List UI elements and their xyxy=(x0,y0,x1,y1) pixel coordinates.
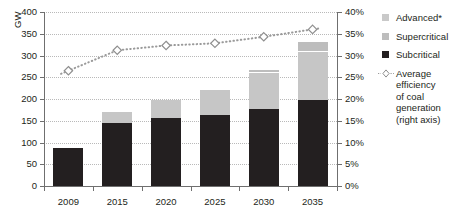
bar-segment-supercritical xyxy=(249,72,279,109)
gridline xyxy=(44,121,337,122)
y-axis-right-tick-label: 20% xyxy=(345,94,364,104)
y-axis-left-line xyxy=(44,12,45,187)
bar-column xyxy=(200,12,230,186)
bar-segment-subcritical xyxy=(102,123,132,186)
y-axis-left-tickmark xyxy=(40,99,44,100)
gridline xyxy=(44,56,337,57)
x-axis-tickmark xyxy=(44,187,45,191)
x-axis-tickmark xyxy=(288,187,289,191)
legend-item-advanced: Advanced* xyxy=(382,12,467,24)
legend-label-avg-eff-line1: Average efficiency xyxy=(396,68,435,91)
y-axis-left-tick-label: 300 xyxy=(21,51,37,61)
legend-swatch-subcritical-icon xyxy=(382,51,389,58)
gridline xyxy=(44,77,337,78)
legend-label-avg-eff-line3: (right axis) xyxy=(396,114,440,125)
bar-segment-divider xyxy=(249,72,279,74)
x-axis-tick-label: 2030 xyxy=(242,196,286,207)
y-axis-right-tick-label: 15% xyxy=(345,116,364,126)
gridline xyxy=(44,99,337,100)
y-axis-right-tick-label: 30% xyxy=(345,51,364,61)
y-axis-right-tick-label: 25% xyxy=(345,72,364,82)
x-axis-tickmark xyxy=(93,187,94,191)
x-axis-tick-label: 2035 xyxy=(291,196,335,207)
legend-label-supercritical: Supercritical xyxy=(396,31,448,43)
bar-segment-subcritical xyxy=(53,148,83,186)
bar-column xyxy=(102,12,132,186)
legend-swatch-advanced-icon xyxy=(382,14,389,21)
gridline xyxy=(44,143,337,144)
legend-dotted-diamond-line-icon xyxy=(378,69,394,78)
y-axis-left-tick-label: 200 xyxy=(21,94,37,104)
y-axis-left-tick-label: 250 xyxy=(21,72,37,82)
y-axis-right-tickmark xyxy=(338,12,342,13)
y-axis-left-tick-label: 350 xyxy=(21,29,37,39)
gridline xyxy=(44,34,337,35)
x-axis-tickmark xyxy=(239,187,240,191)
x-axis-tickmark xyxy=(337,187,338,191)
y-axis-right-tickmark xyxy=(338,164,342,165)
y-axis-right-tickmark xyxy=(338,121,342,122)
gridline xyxy=(44,164,337,165)
x-axis-tick-label: 2025 xyxy=(193,196,237,207)
x-axis-tick-label: 2015 xyxy=(95,196,139,207)
bar-segment-subcritical xyxy=(151,118,181,186)
legend-item-subcritical: Subcritical xyxy=(382,49,467,61)
bar-segment-supercritical xyxy=(102,112,132,123)
gridline xyxy=(44,12,337,13)
y-axis-left-tickmark xyxy=(40,121,44,122)
coal-capacity-chart: GW 050100150200250300350400 0%5%10%15%20… xyxy=(0,0,467,212)
bar-segment-subcritical xyxy=(200,115,230,186)
bar-column xyxy=(151,12,181,186)
y-axis-right-tickmark xyxy=(338,143,342,144)
y-axis-right-tickmark xyxy=(338,34,342,35)
y-axis-right-tick-label: 10% xyxy=(345,138,364,148)
legend-label-advanced: Advanced* xyxy=(396,12,442,24)
y-axis-right-tickmark xyxy=(338,56,342,57)
y-axis-right-tickmark xyxy=(338,77,342,78)
y-axis-left-tick-label: 150 xyxy=(21,116,37,126)
legend-label-subcritical: Subcritical xyxy=(396,49,440,61)
y-axis-left-tick-label: 400 xyxy=(21,7,37,17)
legend-swatch-supercritical-icon xyxy=(382,33,389,40)
y-axis-left-tickmark xyxy=(40,164,44,165)
y-axis-left-tickmark xyxy=(40,56,44,57)
y-axis-left-tick-label: 100 xyxy=(21,138,37,148)
y-axis-right-tickmark xyxy=(338,99,342,100)
legend-label-avg-eff-line2: of coal generation xyxy=(396,91,441,114)
bar-column xyxy=(53,12,83,186)
y-axis-right-tick-label: 5% xyxy=(345,159,359,169)
legend-item-average-efficiency: Average efficiency of coal generation (r… xyxy=(382,68,467,126)
x-axis-tick-label: 2020 xyxy=(144,196,188,207)
y-axis-right-tick-label: 0% xyxy=(345,181,359,191)
bar-segment-divider xyxy=(298,51,328,53)
bar-segment-supercritical xyxy=(298,52,328,101)
efficiency-line-path xyxy=(61,28,320,74)
y-axis-right-tick-label: 35% xyxy=(345,29,364,39)
y-axis-left-tick-label: 0 xyxy=(32,181,37,191)
x-axis-tickmark xyxy=(191,187,192,191)
legend-item-supercritical: Supercritical xyxy=(382,31,467,43)
bar-column xyxy=(298,12,328,186)
bar-segment-supercritical xyxy=(151,100,181,117)
bar-segment-supercritical xyxy=(200,90,230,115)
bar-column xyxy=(249,12,279,186)
bar-segment-subcritical xyxy=(298,100,328,186)
y-axis-left-tick-label: 50 xyxy=(26,159,37,169)
bar-segment-subcritical xyxy=(249,109,279,186)
y-axis-right-tick-label: 40% xyxy=(345,7,364,17)
legend-label-average-efficiency: Average efficiency of coal generation (r… xyxy=(396,68,467,126)
y-axis-left-tickmark xyxy=(40,143,44,144)
y-axis-left-tickmark xyxy=(40,77,44,78)
y-axis-right-tickmark xyxy=(338,186,342,187)
y-axis-left-tickmark xyxy=(40,12,44,13)
y-axis-left-tickmark xyxy=(40,34,44,35)
legend: Advanced* Supercritical Subcritical Aver… xyxy=(382,12,467,132)
x-axis-tick-label: 2009 xyxy=(46,196,90,207)
x-axis-tickmark xyxy=(142,187,143,191)
